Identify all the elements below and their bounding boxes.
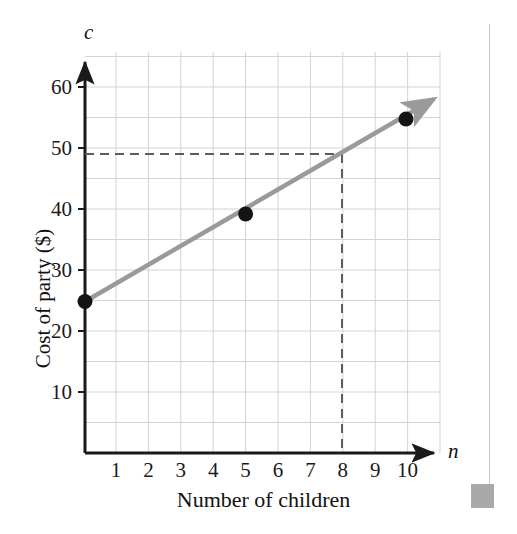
data-point-10-55 [399, 112, 414, 127]
page-scan-rule [489, 24, 490, 490]
cost-line-series [85, 99, 434, 302]
x-tick-label-4: 4 [208, 460, 219, 481]
y-tick-label-60: 60 [28, 77, 72, 98]
x-tick-label-8: 8 [338, 460, 349, 481]
y-tick-label-50: 50 [28, 138, 72, 159]
x-tick-label-3: 3 [176, 460, 187, 481]
data-point-5-40 [238, 207, 253, 222]
x-tick-label-5: 5 [240, 460, 251, 481]
y-axis-title: Cost of party ($) [31, 194, 56, 404]
gray-scan-block [471, 484, 494, 508]
x-tick-label-6: 6 [273, 460, 284, 481]
data-point-0-25 [78, 294, 93, 309]
x-axis-title: Number of children [85, 487, 442, 513]
figure-canvas: c n 60 50 40 30 20 10 1 2 3 4 5 6 7 8 9 … [0, 0, 517, 534]
y-axis-variable-label: c [84, 22, 93, 43]
x-axis-variable-label: n [448, 441, 459, 462]
graph-plot-area: c n 60 50 40 30 20 10 1 2 3 4 5 6 7 8 9 … [0, 0, 517, 534]
x-tick-label-9: 9 [370, 460, 381, 481]
x-tick-label-10: 10 [397, 460, 418, 481]
horizontal-gridlines [85, 57, 440, 423]
graph-svg [0, 0, 517, 534]
x-tick-label-7: 7 [305, 460, 316, 481]
x-tick-label-1: 1 [111, 460, 122, 481]
vertical-gridlines [116, 52, 440, 453]
x-tick-label-2: 2 [143, 460, 154, 481]
